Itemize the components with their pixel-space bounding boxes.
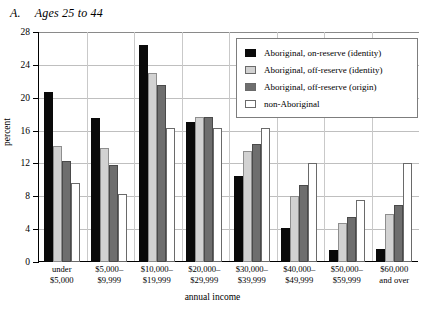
bar	[299, 185, 308, 262]
x-axis-tick-label: $50,000–$59,999	[323, 264, 371, 285]
bar	[62, 161, 71, 262]
legend-label: Aboriginal, off-reserve (identity)	[264, 65, 383, 75]
bar	[403, 163, 412, 262]
y-axis-tick-label: 24	[21, 60, 31, 70]
bar	[234, 176, 243, 262]
y-axis-tick	[33, 262, 39, 263]
bar	[338, 223, 347, 262]
bar	[308, 163, 317, 262]
bar	[290, 196, 299, 262]
legend-label: Aboriginal, off-reserve (origin)	[264, 82, 377, 92]
bar-group	[86, 32, 134, 262]
bar	[204, 117, 213, 262]
x-axis-tick-label: $60,000and over	[371, 264, 419, 285]
bar	[44, 92, 53, 262]
bar-group	[38, 32, 86, 262]
bar-group	[133, 32, 181, 262]
legend-item: non-Aboriginal	[245, 95, 411, 112]
bar	[186, 122, 195, 262]
legend-item: Aboriginal, off-reserve (origin)	[245, 78, 411, 95]
bar	[195, 117, 204, 262]
y-axis-tick-label: 28	[21, 27, 31, 37]
bar	[243, 151, 252, 262]
legend-swatch-off-reserve-origin	[245, 83, 256, 91]
bar	[329, 250, 338, 262]
bar	[213, 128, 222, 262]
legend-label: Aboriginal, on-reserve (identity)	[264, 48, 381, 58]
bar	[261, 128, 270, 262]
bar	[166, 128, 175, 262]
bar	[356, 200, 365, 262]
bar	[91, 118, 100, 262]
x-axis-tick-label: $30,000–$39,999	[228, 264, 276, 285]
x-axis-tick-label: $20,000–$29,999	[181, 264, 229, 285]
legend-swatch-on-reserve-identity	[245, 49, 256, 57]
legend-item: Aboriginal, on-reserve (identity)	[245, 44, 411, 61]
y-axis-tick-label: 0	[25, 257, 30, 267]
x-axis-tick-label: $5,000–$9,999	[86, 264, 134, 285]
x-axis-tick-label: $10,000–$19,999	[133, 264, 181, 285]
bar	[71, 183, 80, 262]
x-axis-tick-label: $40,000–$49,999	[276, 264, 324, 285]
x-axis-tick-labels: under$5,000$5,000–$9,999$10,000–$19,999$…	[38, 264, 418, 285]
y-axis-tick-label: 12	[21, 158, 31, 168]
legend-item: Aboriginal, off-reserve (identity)	[245, 61, 411, 78]
bar	[252, 144, 261, 262]
x-axis-title: annual income	[0, 292, 425, 302]
legend-label: non-Aboriginal	[264, 99, 320, 109]
y-axis-tick-label: 20	[21, 93, 31, 103]
y-axis-tick-label: 4	[25, 224, 30, 234]
y-axis-tick-label: 8	[25, 191, 30, 201]
bar	[281, 228, 290, 262]
bar	[118, 194, 127, 262]
bar-group	[181, 32, 229, 262]
bar	[157, 85, 166, 262]
y-axis-title: percent	[2, 118, 12, 146]
chart-legend: Aboriginal, on-reserve (identity) Aborig…	[236, 38, 418, 118]
y-axis-tick-label: 16	[21, 126, 31, 136]
bar	[376, 249, 385, 262]
legend-swatch-non-aboriginal	[245, 100, 256, 108]
legend-swatch-off-reserve-identity	[245, 66, 256, 74]
bar	[347, 217, 356, 262]
bar	[394, 205, 403, 263]
bar	[148, 73, 157, 262]
bar	[385, 214, 394, 262]
bar	[53, 146, 62, 262]
x-axis-tick-label: under$5,000	[38, 264, 86, 285]
bar	[100, 148, 109, 262]
bar	[109, 165, 118, 262]
bar	[139, 45, 148, 262]
